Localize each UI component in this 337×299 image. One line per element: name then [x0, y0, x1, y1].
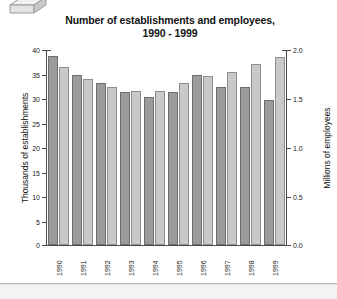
chart-title-line2: 1990 - 1999	[30, 27, 310, 40]
y-tick-label-left: 30	[32, 96, 40, 103]
y-tick-right	[287, 148, 291, 149]
bar-establishments	[168, 92, 178, 245]
bottom-band	[0, 284, 337, 299]
bar-employees	[155, 91, 165, 245]
bar-employees	[83, 79, 93, 245]
bar-group	[215, 50, 239, 245]
bar-group	[95, 50, 119, 245]
bar-group	[119, 50, 143, 245]
bar-inline-label-employees: Employees	[59, 209, 60, 241]
y-tick-left	[42, 197, 46, 198]
bar-employees	[131, 91, 141, 245]
y-tick-label-right: 2.0	[293, 47, 303, 54]
x-tick-label: 1996	[200, 260, 208, 276]
y-tick-label-right: 0.5	[293, 194, 303, 201]
bar-establishments: Establishments	[48, 56, 58, 245]
y-tick-left	[42, 173, 46, 174]
y-tick-label-left: 5	[36, 219, 40, 226]
chart-title: Number of establishments and employees, …	[30, 14, 310, 40]
y-tick-label-right: 0.0	[293, 242, 303, 249]
bar-group	[263, 50, 287, 245]
bar-group	[239, 50, 263, 245]
x-axis-labels: 1990 1991 1992 1993 1994 1995 1996 1997 …	[46, 249, 287, 279]
y-tick-label-left: 15	[32, 170, 40, 177]
bar-group	[167, 50, 191, 245]
y-tick-label-left: 0	[36, 242, 40, 249]
bar-establishments	[120, 92, 130, 245]
x-tick-label: 1993	[128, 260, 136, 276]
x-tick-label: 1990	[56, 260, 64, 276]
x-tick-label: 1998	[248, 260, 256, 276]
bar-establishments	[192, 75, 202, 246]
plot-area: 40 35 30 25 20 15 10 5 0 2.0 1.5 1.0 0.5…	[46, 50, 287, 246]
y-tick-label-left: 40	[32, 47, 40, 54]
y-tick-label-right: 1.5	[293, 96, 303, 103]
x-tick-label: 1991	[80, 260, 88, 276]
y-tick-right	[287, 99, 291, 100]
bar-group	[143, 50, 167, 245]
bar-group	[71, 50, 95, 245]
bar-employees	[179, 83, 189, 245]
bar-group: Establishments Employees	[47, 50, 71, 245]
bar-employees	[203, 76, 213, 245]
y-tick-label-left: 20	[32, 145, 40, 152]
y-axis-right-title: Millions of employees	[322, 53, 332, 243]
bar-employees	[251, 64, 261, 245]
bar-establishments	[240, 87, 250, 245]
x-tick-label: 1992	[104, 260, 112, 276]
bar-employees	[107, 87, 117, 245]
bar-employees	[275, 57, 285, 245]
y-tick-right	[287, 50, 291, 51]
bar-establishments	[216, 87, 226, 245]
bar-group	[191, 50, 215, 245]
bar-establishments	[264, 100, 274, 245]
bar-inline-label-establishments: Establishments	[48, 197, 49, 241]
y-tick-left	[42, 124, 46, 125]
y-tick-right	[287, 197, 291, 198]
x-tick-label: 1999	[272, 260, 280, 276]
bar-establishments	[96, 83, 106, 245]
bar-establishments	[72, 75, 82, 246]
y-tick-left	[42, 99, 46, 100]
x-tick-label: 1994	[152, 260, 160, 276]
y-tick-left	[42, 222, 46, 223]
bar-employees: Employees	[59, 67, 69, 245]
bar-employees	[227, 72, 237, 245]
y-tick-left	[42, 75, 46, 76]
bar-establishments	[144, 97, 154, 246]
y-tick-right	[287, 245, 291, 246]
y-axis-left-title: Thousands of establishments	[20, 53, 30, 243]
y-tick-label-left: 10	[32, 194, 40, 201]
y-tick-left	[42, 148, 46, 149]
y-tick-label-left: 35	[32, 72, 40, 79]
x-axis	[46, 245, 287, 246]
y-tick-left	[42, 245, 46, 246]
chart-title-line1: Number of establishments and employees,	[65, 14, 275, 26]
bars-layer: Establishments Employees	[47, 50, 287, 245]
y-tick-left	[42, 50, 46, 51]
y-tick-label-right: 1.0	[293, 145, 303, 152]
x-tick-label: 1997	[224, 260, 232, 276]
y-tick-label-left: 25	[32, 121, 40, 128]
x-tick-label: 1995	[176, 260, 184, 276]
